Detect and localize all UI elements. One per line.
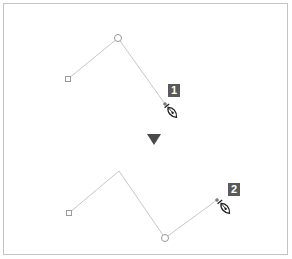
square-anchor-icon <box>66 77 71 82</box>
pen-cursor-icon <box>165 104 179 119</box>
down-arrow-icon <box>147 134 161 145</box>
circle-anchor-icon <box>115 35 122 42</box>
step-1-badge: 1 <box>168 84 180 97</box>
square-anchor-icon <box>67 211 72 216</box>
pen-tool-diagram <box>0 0 292 259</box>
circle-anchor-icon <box>162 235 169 242</box>
pen-cursor-icon <box>218 200 232 215</box>
step-1-path <box>66 35 179 120</box>
step-2-badge: 2 <box>228 183 240 196</box>
step-2-path <box>67 171 232 242</box>
